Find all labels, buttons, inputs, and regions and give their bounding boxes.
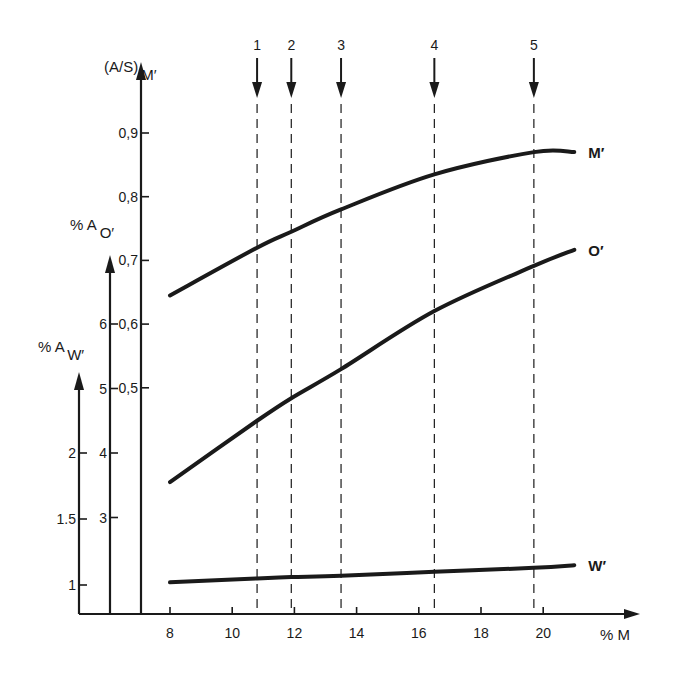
y-tick-label: 1 — [68, 577, 76, 593]
series-O_prime-curve — [170, 250, 574, 482]
y-tick-label: 3 — [99, 510, 107, 526]
y-tick-label: 0,6 — [119, 316, 139, 332]
x-tick-label: 20 — [535, 625, 551, 641]
marker-4-arrow-icon — [429, 82, 439, 98]
line-chart: 8101214161820% M0,50,60,70,80,9(A/S)M′34… — [0, 0, 675, 677]
marker-1-label: 1 — [253, 37, 261, 53]
marker-4-label: 4 — [430, 37, 438, 53]
y-tick-label: 0,9 — [119, 125, 139, 141]
series-M_prime-label: M′ — [588, 144, 604, 161]
y-tick-label: 6 — [99, 316, 107, 332]
marker-1-arrow-icon — [252, 82, 262, 98]
marker-2-arrow-icon — [286, 82, 296, 98]
y-axis-W_prime-arrow-icon — [74, 372, 84, 390]
marker-3-label: 3 — [337, 37, 345, 53]
x-tick-label: 18 — [473, 625, 489, 641]
y-tick-label: 1.5 — [57, 511, 77, 527]
x-tick-label: 10 — [224, 625, 240, 641]
y-tick-label: 5 — [99, 381, 107, 397]
marker-5-label: 5 — [530, 37, 538, 53]
y-axis-M_prime-title: (A/S)M′ — [104, 58, 157, 83]
x-tick-label: 16 — [411, 625, 427, 641]
x-axis-title: % M — [600, 626, 630, 643]
y-axis-W_prime-title: % AW′ — [38, 338, 84, 363]
marker-5-arrow-icon — [529, 82, 539, 98]
x-tick-label: 8 — [166, 625, 174, 641]
y-tick-label: 2 — [68, 445, 76, 461]
marker-lines-group: 12345 — [252, 37, 539, 614]
x-tick-label: 12 — [287, 625, 303, 641]
marker-3-arrow-icon — [336, 82, 346, 98]
series-group: M′O′W′ — [170, 144, 606, 582]
y-tick-label: 0,8 — [119, 189, 139, 205]
y-tick-label: 0,7 — [119, 252, 139, 268]
series-W_prime-curve — [170, 565, 574, 582]
x-tick-label: 14 — [349, 625, 365, 641]
y-tick-label: 4 — [99, 445, 107, 461]
y-axis-O_prime-arrow-icon — [105, 255, 115, 273]
series-W_prime-label: W′ — [588, 557, 606, 574]
series-O_prime-label: O′ — [588, 242, 604, 259]
y-tick-label: 0,5 — [119, 380, 139, 396]
axes-group: 8101214161820% M0,50,60,70,80,9(A/S)M′34… — [38, 58, 640, 643]
marker-2-label: 2 — [287, 37, 295, 53]
y-axis-O_prime-title: % AO′ — [70, 216, 114, 241]
chart-container: 8101214161820% M0,50,60,70,80,9(A/S)M′34… — [0, 0, 675, 677]
x-axis-arrow-icon — [624, 609, 640, 619]
